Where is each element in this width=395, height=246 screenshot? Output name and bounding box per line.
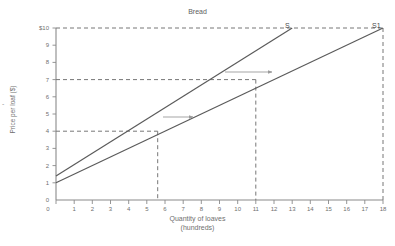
x-axis-title: Quantity of loaves (hundreds) [0,214,395,233]
guide-lines [56,28,383,200]
supply-curves [56,28,383,183]
x-axis-title-sub: (hundreds) [0,223,395,232]
curve-label-s1: S1 [372,22,381,29]
y-tick-label-6: 6 [32,94,49,100]
x-tick-label-4: 4 [127,206,130,212]
x-tick-marks [56,200,383,204]
x-tick-label-0: 0 [46,206,49,212]
x-tick-label-1: 1 [73,206,76,212]
x-tick-label-10: 10 [234,206,241,212]
x-tick-label-5: 5 [145,206,148,212]
curve-s1 [56,28,383,183]
y-tick-label-9: 9 [32,42,49,48]
y-tick-label-5: 5 [32,111,49,117]
x-tick-label-7: 7 [182,206,185,212]
axes-group [56,28,383,200]
y-tick-label-3: 3 [32,145,49,151]
x-tick-label-14: 14 [307,206,314,212]
x-tick-label-8: 8 [200,206,203,212]
x-tick-label-16: 16 [343,206,350,212]
y-tick-label-4: 4 [32,128,49,134]
curve-s [56,28,292,176]
y-tick-label-7: 7 [32,77,49,83]
y-tick-label-8: 8 [32,59,49,65]
x-tick-label-3: 3 [109,206,112,212]
x-tick-label-6: 6 [163,206,166,212]
chart-container: Bread Price per loaf ($) - [0,0,395,246]
y-tick-label-0: 0 [32,197,49,203]
x-tick-label-2: 2 [91,206,94,212]
x-tick-label-11: 11 [253,206,259,212]
x-tick-label-18: 18 [380,206,387,212]
y-tick-label-1: 1 [32,180,49,186]
curve-label-s: S [285,22,290,29]
y-tick-label-2: 2 [32,163,49,169]
x-tick-label-12: 12 [271,206,278,212]
x-axis-title-main: Quantity of loaves [0,214,395,223]
x-tick-label-17: 17 [361,206,368,212]
x-tick-label-15: 15 [325,206,332,212]
x-tick-label-13: 13 [289,206,296,212]
chart-plot [0,0,395,246]
y-tick-label-10: $10 [27,25,49,31]
x-tick-label-9: 9 [218,206,221,212]
